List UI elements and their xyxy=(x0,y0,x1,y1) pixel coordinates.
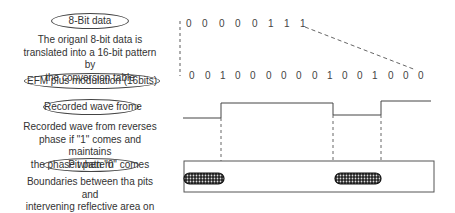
bit: 0 xyxy=(189,70,195,81)
conversion-right-guide xyxy=(305,27,416,70)
bit: 0 xyxy=(312,70,318,81)
bit: 0 xyxy=(342,70,348,81)
bit: 0 xyxy=(296,70,302,81)
bit: 0 xyxy=(281,70,287,81)
bit: 0 xyxy=(252,18,258,29)
bit: 0 xyxy=(205,70,211,81)
bit: 0 xyxy=(418,70,424,81)
bit: 0 xyxy=(202,18,208,29)
bit: 1 xyxy=(220,70,226,81)
bit: 1 xyxy=(327,70,333,81)
pit xyxy=(184,173,224,184)
bit: 0 xyxy=(403,70,409,81)
sixteen-bit-row: 0 0 1 0 0 0 0 0 0 1 0 0 1 0 0 0 xyxy=(189,70,424,81)
eight-bit-row: 0 0 0 0 0 1 1 1 xyxy=(186,18,306,29)
bit: 1 xyxy=(284,18,290,29)
bit: 0 xyxy=(235,70,241,81)
efm-diagram: 0 0 0 0 0 1 1 1 0 0 1 0 0 0 0 0 0 1 0 0 … xyxy=(0,0,455,213)
bit: 1 xyxy=(268,18,274,29)
bit: 1 xyxy=(372,70,378,81)
bit: 0 xyxy=(235,18,241,29)
bit: 0 xyxy=(186,18,192,29)
pit xyxy=(335,173,381,184)
bit: 0 xyxy=(357,70,363,81)
bit: 0 xyxy=(250,70,256,81)
bit: 0 xyxy=(388,70,394,81)
bit: 0 xyxy=(219,18,225,29)
bit: 0 xyxy=(266,70,272,81)
recorded-waveform xyxy=(183,101,431,118)
